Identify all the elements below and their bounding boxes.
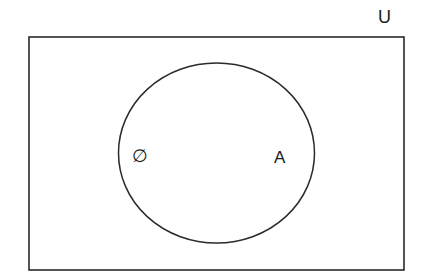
venn-diagram	[0, 0, 424, 280]
empty-set-label: ∅	[132, 147, 148, 165]
universe-rectangle	[29, 37, 404, 270]
set-a-label: A	[274, 149, 285, 166]
universe-label: U	[378, 8, 391, 26]
